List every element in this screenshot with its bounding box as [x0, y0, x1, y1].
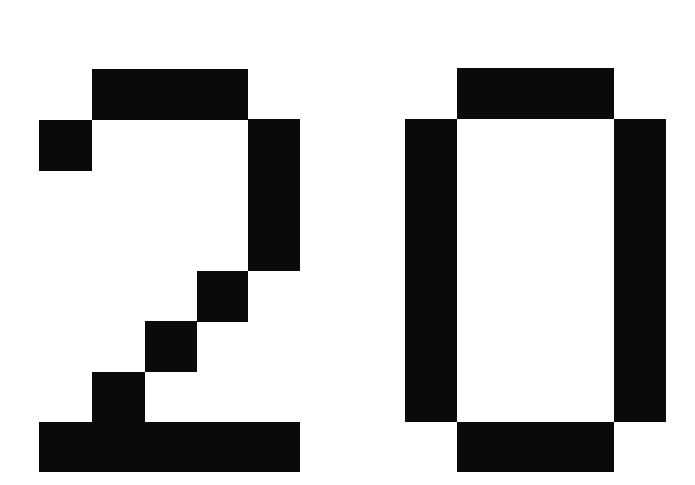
pixel-block [405, 119, 457, 422]
pixel-block [614, 119, 666, 422]
digit-zero [0, 0, 695, 485]
pixel-block [457, 422, 614, 472]
pixel-block [457, 68, 614, 119]
